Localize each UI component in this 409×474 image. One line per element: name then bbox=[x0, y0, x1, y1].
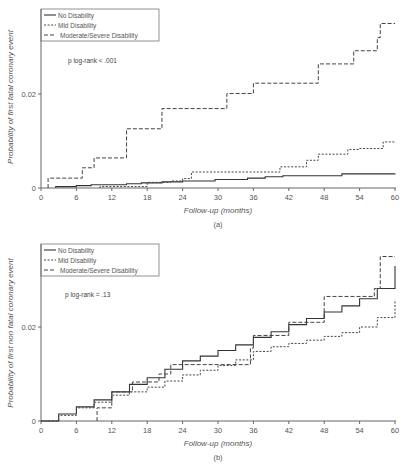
x-tick-label: 30 bbox=[214, 193, 222, 202]
x-tick-label: 24 bbox=[178, 193, 186, 202]
y-axis-label-a: Probability of first fatal coronary even… bbox=[6, 29, 15, 164]
series-line-no-disability bbox=[41, 266, 395, 421]
axes-b: 0612182430364248546000.02 bbox=[21, 323, 399, 435]
legend-label-mid-a: Mid Disability bbox=[58, 22, 97, 30]
caption-b: (b) bbox=[213, 453, 223, 462]
series-a bbox=[48, 24, 395, 189]
legend-label-mod-a: Moderate/Severe Disability bbox=[60, 32, 138, 40]
p-value-annotation-a: p log-rank < .001 bbox=[68, 57, 117, 65]
x-tick-label: 60 bbox=[391, 426, 399, 435]
x-tick-label: 18 bbox=[143, 426, 151, 435]
x-tick-label: 6 bbox=[74, 426, 78, 435]
x-tick-label: 12 bbox=[108, 426, 116, 435]
series-line-moderate-severe-disability bbox=[48, 24, 395, 189]
x-axis-label-a: Follow-up (months) bbox=[184, 206, 253, 215]
x-tick-label: 12 bbox=[108, 193, 116, 202]
x-tick-label: 0 bbox=[39, 426, 43, 435]
x-tick-label: 6 bbox=[74, 193, 78, 202]
x-tick-label: 48 bbox=[320, 426, 328, 435]
legend-label-mod-b: Moderate/Severe Disability bbox=[60, 267, 138, 275]
x-tick-label: 18 bbox=[143, 193, 151, 202]
caption-a: (a) bbox=[213, 220, 223, 229]
y-axis-label-b: Probability of first non fatal coronary … bbox=[6, 258, 15, 408]
panel-a: Probability of first fatal coronary even… bbox=[6, 9, 399, 229]
x-tick-label: 0 bbox=[39, 193, 43, 202]
y-tick-label: 0 bbox=[32, 417, 36, 426]
figure: Probability of first fatal coronary even… bbox=[0, 0, 409, 474]
legend-label-mid-b: Mid Disability bbox=[58, 257, 97, 265]
series-b bbox=[41, 257, 395, 422]
x-tick-label: 36 bbox=[249, 426, 257, 435]
x-tick-label: 54 bbox=[355, 426, 363, 435]
x-tick-label: 60 bbox=[391, 193, 399, 202]
y-axis-title-a: Probability of first fatal coronary even… bbox=[6, 29, 15, 164]
x-axis-label-b: Follow-up (months) bbox=[184, 439, 253, 448]
p-value-annotation-b: p log-rank = .13 bbox=[65, 291, 111, 299]
series-line-no-disability bbox=[56, 173, 395, 188]
x-tick-label: 24 bbox=[178, 426, 186, 435]
x-tick-label: 54 bbox=[355, 193, 363, 202]
y-tick-label: 0 bbox=[32, 184, 36, 193]
series-line-mid-disability bbox=[100, 141, 395, 188]
series-line-moderate-severe-disability bbox=[97, 257, 395, 422]
x-tick-label: 30 bbox=[214, 426, 222, 435]
legend-label-none-a: No Disability bbox=[58, 12, 95, 20]
x-tick-label: 48 bbox=[320, 193, 328, 202]
panel-b: Probability of first non fatal coronary … bbox=[6, 244, 399, 462]
x-tick-label: 36 bbox=[249, 193, 257, 202]
y-tick-label: 0.02 bbox=[21, 323, 36, 332]
x-tick-label: 42 bbox=[285, 426, 293, 435]
y-tick-label: 0.02 bbox=[21, 90, 36, 99]
x-tick-label: 42 bbox=[285, 193, 293, 202]
legend-label-none-b: No Disability bbox=[58, 247, 95, 255]
